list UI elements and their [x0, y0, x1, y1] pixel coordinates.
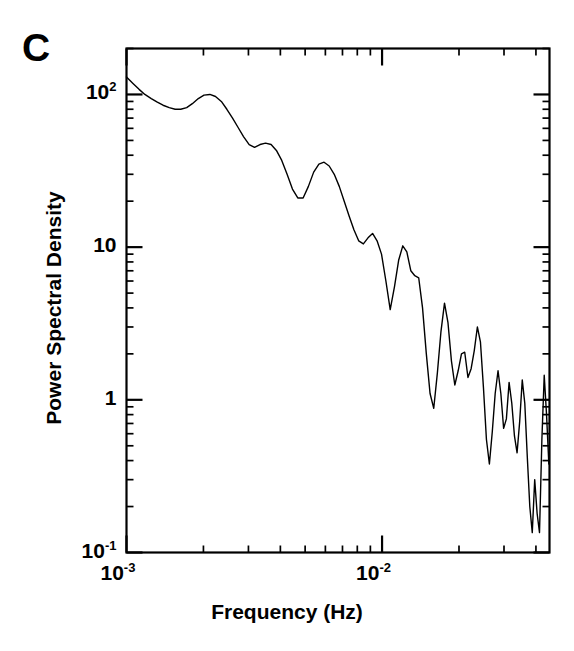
y-tick-label-100: 102: [86, 81, 117, 102]
x-axis-title: Frequency (Hz): [0, 600, 574, 624]
y-tick-label-0.1: 10-1: [82, 540, 117, 561]
data-series-layer: [127, 77, 549, 533]
x-tick-label-0.01: 10-2: [0, 562, 574, 583]
y-tick-label-10: 10: [93, 234, 116, 255]
y-tick-label-1: 1: [105, 387, 117, 408]
axis-frame: [127, 49, 550, 553]
axis-ticks: [127, 49, 550, 553]
psd-figure-panel-c: C 102 10 1 10-1 10-3 10-2 Frequency (Hz)…: [0, 0, 574, 651]
y-axis-title: Power Spectral Density: [42, 158, 66, 458]
